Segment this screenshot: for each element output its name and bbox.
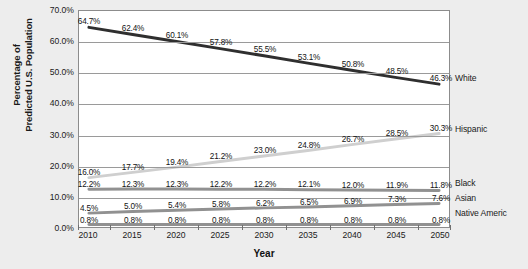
- data-label: 16.0%: [78, 168, 100, 177]
- data-label: 6.9%: [344, 197, 362, 206]
- y-axis-tick-600: 60.0%: [34, 36, 74, 46]
- data-label: 0.8%: [124, 216, 142, 225]
- x-axis-minor-tick: [110, 225, 111, 230]
- data-label: 0.8%: [344, 216, 362, 225]
- data-label: 11.9%: [386, 181, 408, 190]
- y-axis-tick-100: 10.0%: [34, 192, 74, 202]
- data-label: 53.1%: [298, 53, 320, 62]
- data-label: 46.3%: [430, 74, 452, 83]
- data-label: 60.1%: [166, 31, 188, 40]
- data-label: 0.8%: [80, 216, 98, 225]
- legend: WhiteHispanicBlackAsianNative Americ: [455, 0, 528, 269]
- data-label: 12.0%: [342, 181, 364, 190]
- data-label: 12.1%: [298, 180, 320, 189]
- x-axis-tick-2025: 2025: [210, 230, 229, 240]
- legend-item-native-americ[interactable]: Native Americ: [455, 208, 507, 218]
- x-axis-tick-2035: 2035: [298, 230, 317, 240]
- x-axis-end-tick: [78, 225, 79, 230]
- data-label: 30.3%: [430, 124, 452, 133]
- x-axis-tick-2015: 2015: [122, 230, 141, 240]
- data-label: 0.8%: [388, 216, 406, 225]
- data-label: 12.2%: [254, 180, 276, 189]
- data-label: 12.2%: [78, 180, 100, 189]
- data-label: 0.8%: [432, 216, 450, 225]
- data-label: 5.8%: [212, 200, 230, 209]
- x-axis-tick-2050: 2050: [430, 230, 449, 240]
- x-axis-minor-tick: [418, 225, 419, 230]
- data-label: 0.8%: [212, 216, 230, 225]
- data-label: 12.2%: [210, 180, 232, 189]
- x-axis-tick-2045: 2045: [386, 230, 405, 240]
- gridline: [79, 42, 449, 43]
- y-axis-tick-500: 50.0%: [34, 67, 74, 77]
- y-axis-tick-labels: 0.0%10.0%20.0%30.0%40.0%50.0%60.0%70.0%: [32, 0, 74, 269]
- data-label: 57.8%: [210, 38, 232, 47]
- data-label: 6.2%: [256, 199, 274, 208]
- data-label: 0.8%: [256, 216, 274, 225]
- data-label: 7.6%: [432, 194, 450, 203]
- x-axis-tick-labels: 201020152020202520302035204020452050: [78, 230, 450, 246]
- data-label: 19.4%: [166, 158, 188, 167]
- data-label: 4.5%: [80, 204, 98, 213]
- y-axis-tick-700: 70.0%: [34, 5, 74, 15]
- data-label: 62.4%: [122, 24, 144, 33]
- x-axis-minor-tick: [286, 225, 287, 230]
- legend-item-asian[interactable]: Asian: [455, 193, 476, 203]
- data-label: 21.2%: [210, 152, 232, 161]
- x-axis-tick-2010: 2010: [78, 230, 97, 240]
- data-label: 28.5%: [386, 129, 408, 138]
- data-label: 23.0%: [254, 146, 276, 155]
- data-label: 50.8%: [342, 60, 364, 69]
- x-axis-minor-tick: [242, 225, 243, 230]
- data-label: 55.5%: [254, 45, 276, 54]
- data-label: 5.0%: [124, 202, 142, 211]
- x-axis-title: Year: [78, 248, 450, 259]
- x-axis-tick-2020: 2020: [166, 230, 185, 240]
- data-label: 26.7%: [342, 135, 364, 144]
- data-label: 17.7%: [122, 163, 144, 172]
- y-axis-tick-00: 0.0%: [34, 223, 74, 233]
- data-label: 5.4%: [168, 201, 186, 210]
- data-label: 6.5%: [300, 198, 318, 207]
- x-axis-minor-tick: [154, 225, 155, 230]
- y-axis-tick-200: 20.0%: [34, 161, 74, 171]
- y-axis-tick-300: 30.0%: [34, 130, 74, 140]
- data-label: 11.8%: [430, 181, 452, 190]
- data-label: 0.8%: [168, 216, 186, 225]
- data-label: 12.3%: [166, 180, 188, 189]
- data-label: 7.3%: [388, 195, 406, 204]
- y-axis-tick-400: 40.0%: [34, 98, 74, 108]
- x-axis-end-tick: [450, 225, 451, 230]
- x-axis-minor-tick: [374, 225, 375, 230]
- legend-item-black[interactable]: Black: [455, 178, 476, 188]
- data-label: 12.3%: [122, 180, 144, 189]
- plot-area: 64.7%62.4%60.1%57.8%55.5%53.1%50.8%48.5%…: [78, 10, 450, 228]
- x-axis-tick-2030: 2030: [254, 230, 273, 240]
- data-label: 24.8%: [298, 141, 320, 150]
- x-axis-minor-tick: [198, 225, 199, 230]
- data-label: 48.5%: [386, 67, 408, 76]
- data-label: 0.8%: [300, 216, 318, 225]
- population-projection-line-chart: Percentage of Predicted U.S. Population …: [0, 0, 528, 269]
- data-label: 64.7%: [78, 17, 100, 26]
- gridline: [79, 104, 449, 105]
- legend-item-hispanic[interactable]: Hispanic: [455, 124, 487, 134]
- x-axis-minor-tick: [330, 225, 331, 230]
- x-axis-tick-2040: 2040: [342, 230, 361, 240]
- y-axis-title-line1: Percentage of: [11, 0, 23, 175]
- legend-item-white[interactable]: White: [455, 73, 476, 83]
